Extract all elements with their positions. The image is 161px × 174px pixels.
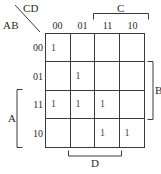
kmap-cell[interactable] — [71, 119, 96, 147]
kmap-cell[interactable] — [120, 34, 145, 62]
bracket-b-shape — [147, 61, 154, 120]
cell-value: 1 — [51, 43, 56, 53]
row-header-2: 11 — [22, 91, 43, 120]
bracket-group-c: C — [93, 3, 151, 20]
kmap-cell[interactable]: 1 — [71, 62, 96, 90]
bracket-d-shape — [68, 150, 122, 157]
column-header-row: 00 01 11 10 — [45, 19, 145, 32]
axis-corner-header: CD AB — [2, 2, 48, 34]
cell-value: 1 — [51, 99, 56, 109]
kmap-cell[interactable] — [95, 34, 120, 62]
column-header-2: 11 — [95, 19, 120, 32]
bracket-group-b: B — [146, 61, 161, 121]
cell-value: 1 — [125, 128, 130, 138]
bracket-group-a: A — [8, 89, 24, 149]
row-header-column: 00 01 11 10 — [22, 33, 43, 148]
bracket-a-shape — [16, 89, 23, 148]
kmap-cell[interactable] — [95, 62, 120, 90]
bracket-label-a: A — [8, 113, 16, 124]
kmap-cell[interactable] — [120, 91, 145, 119]
cell-value: 1 — [100, 128, 105, 138]
kmap-cell[interactable] — [46, 62, 71, 90]
kmap-cell[interactable]: 1 — [46, 34, 71, 62]
cell-value: 1 — [100, 99, 105, 109]
row-header-1: 01 — [22, 62, 43, 91]
kmap-grid: 1 1 1 1 1 1 1 — [45, 33, 145, 148]
kmap-cell[interactable]: 1 — [46, 91, 71, 119]
column-header-3: 10 — [120, 19, 145, 32]
kmap-cell[interactable] — [46, 119, 71, 147]
cell-value: 1 — [76, 71, 81, 81]
cell-value: 1 — [76, 99, 81, 109]
row-axis-label: AB — [3, 20, 19, 31]
kmap-cell[interactable]: 1 — [95, 91, 120, 119]
kmap-cell[interactable]: 1 — [71, 91, 96, 119]
kmap-cell[interactable]: 1 — [120, 119, 145, 147]
kmap-cell[interactable] — [71, 34, 96, 62]
column-header-1: 01 — [70, 19, 95, 32]
bracket-label-c: C — [117, 3, 124, 14]
row-header-0: 00 — [22, 33, 43, 62]
bracket-c-shape — [93, 13, 149, 20]
kmap-cell[interactable] — [120, 62, 145, 90]
bracket-group-d: D — [68, 150, 124, 172]
kmap-cell[interactable]: 1 — [95, 119, 120, 147]
column-header-0: 00 — [45, 19, 70, 32]
row-header-3: 10 — [22, 119, 43, 148]
karnaugh-map-figure: CD AB 00 01 11 10 00 01 11 10 1 1 1 1 1 … — [0, 0, 161, 174]
bracket-label-d: D — [91, 158, 99, 169]
column-axis-label: CD — [23, 3, 39, 14]
bracket-label-b: B — [155, 85, 161, 96]
